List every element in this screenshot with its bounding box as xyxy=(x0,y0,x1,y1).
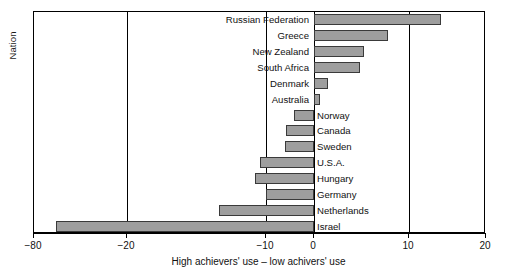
category-label-greece: Greece xyxy=(278,30,309,41)
x-tick-neg80 xyxy=(33,233,34,238)
x-tick-label-neg10: −10 xyxy=(257,240,274,251)
x-axis-title: High achievers' use – low achivers' use xyxy=(0,256,517,267)
x-tick-label-0: 0 xyxy=(310,240,316,251)
plot-area: Russian FederationGreeceNew ZealandSouth… xyxy=(33,11,485,233)
bar-canada xyxy=(286,125,314,136)
x-tick-10 xyxy=(408,233,409,238)
x-tick-0 xyxy=(313,233,314,238)
category-label-sweden: Sweden xyxy=(317,141,352,152)
category-label-denmark: Denmark xyxy=(270,78,309,89)
x-tick-neg10 xyxy=(265,233,266,238)
category-label-netherlands: Netherlands xyxy=(317,205,369,216)
bar-chart-figure: Nation Russian FederationGreeceNew Zeala… xyxy=(0,0,517,279)
bar-australia xyxy=(314,94,320,105)
bar-germany xyxy=(266,189,314,200)
category-label-south-africa: South Africa xyxy=(257,62,309,73)
category-label-germany: Germany xyxy=(317,189,356,200)
x-tick-label-10: 10 xyxy=(402,240,413,251)
bar-denmark xyxy=(314,78,328,89)
bars-group: Russian FederationGreeceNew ZealandSouth… xyxy=(34,12,484,232)
x-tick-label-neg20: −20 xyxy=(118,240,135,251)
bar-israel xyxy=(56,221,314,232)
bar-hungary xyxy=(255,173,314,184)
x-tick-20 xyxy=(485,233,486,238)
bar-new-zealand xyxy=(314,46,364,57)
x-axis-line xyxy=(33,233,485,234)
category-label-israel: Israel xyxy=(317,221,340,232)
bar-norway xyxy=(294,110,314,121)
y-axis-title-text: Nation xyxy=(7,31,18,59)
category-label-u-s-a: U.S.A. xyxy=(317,157,345,168)
category-label-norway: Norway xyxy=(317,110,350,121)
bar-netherlands xyxy=(219,205,314,216)
bar-south-africa xyxy=(314,62,360,73)
category-label-australia: Australia xyxy=(272,94,309,105)
x-tick-label-20: 20 xyxy=(479,240,490,251)
category-label-hungary: Hungary xyxy=(317,173,353,184)
category-label-russian-federation: Russian Federation xyxy=(226,14,309,25)
y-axis-title: Nation xyxy=(2,10,22,80)
bar-russian-federation xyxy=(314,14,441,25)
x-tick-neg20 xyxy=(126,233,127,238)
category-label-new-zealand: New Zealand xyxy=(252,46,309,57)
category-label-canada: Canada xyxy=(317,125,351,136)
bar-u-s-a xyxy=(260,157,314,168)
bar-greece xyxy=(314,30,388,41)
x-tick-label-neg80: −80 xyxy=(25,240,42,251)
bar-sweden xyxy=(285,141,314,152)
